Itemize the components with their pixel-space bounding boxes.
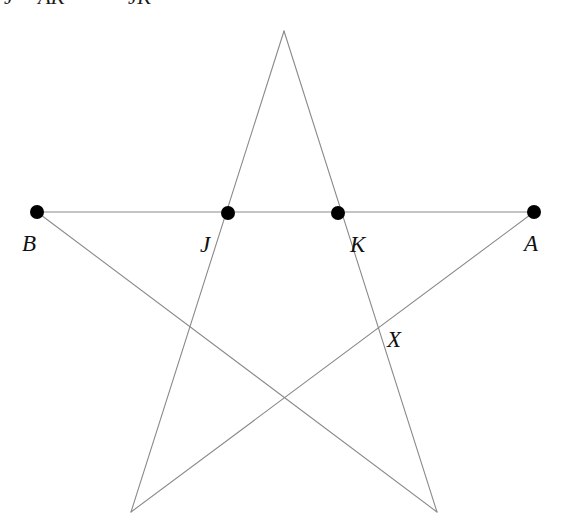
point-label-X: X: [387, 328, 401, 351]
vertex-dot-J: [221, 206, 235, 220]
chord-apex-bottomright: [284, 31, 437, 512]
point-label-A: A: [524, 232, 538, 255]
point-label-J: J: [200, 233, 210, 256]
geometry-figure: J AK JK B J K A X: [0, 0, 571, 531]
vertex-dot-B: [30, 205, 44, 219]
chord-A-bottomleft: [131, 212, 534, 512]
point-label-B: B: [22, 232, 36, 255]
chord-B-bottomright: [37, 212, 437, 512]
chord-apex-bottomleft: [131, 31, 284, 512]
chord-layer: [37, 31, 534, 512]
vertex-dot-A: [527, 205, 541, 219]
pentagram-svg: [0, 0, 571, 531]
vertex-dot-K: [331, 206, 345, 220]
point-label-K: K: [350, 233, 365, 256]
